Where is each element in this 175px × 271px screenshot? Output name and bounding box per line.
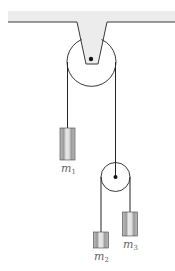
- mass-m3: m3: [123, 212, 138, 252]
- mass-m2: m2: [94, 232, 109, 264]
- svg-text:m1: m1: [61, 162, 76, 176]
- axle-icon: [89, 57, 93, 61]
- svg-text:m2: m2: [94, 250, 109, 264]
- mass-m1: m1: [60, 128, 76, 176]
- svg-text:m3: m3: [123, 238, 138, 252]
- pulley-diagram: m1 m2 m3: [0, 0, 175, 271]
- ceiling-support: [8, 11, 175, 64]
- axle-icon: [114, 175, 118, 179]
- lower-pulley: [101, 163, 130, 192]
